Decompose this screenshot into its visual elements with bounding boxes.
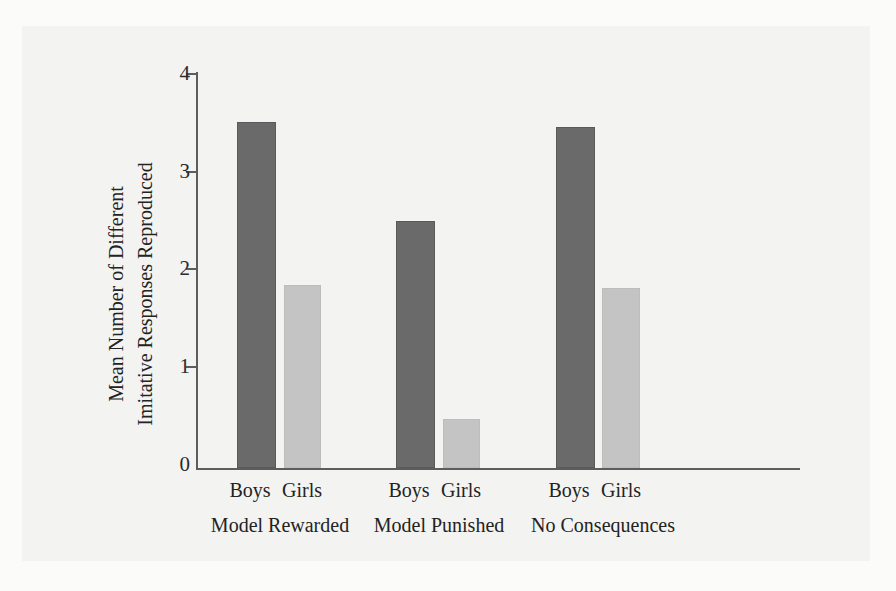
bar-boys-model-rewarded[interactable] (237, 122, 276, 468)
bar-girls-model-rewarded[interactable] (284, 285, 321, 468)
y-axis-title-line-2: Imitative Responses Reproduced (131, 84, 160, 504)
y-tick-label-1: 1 (150, 356, 190, 377)
group-label-model-punished: Model Punished (364, 514, 514, 537)
y-tick-label-3: 3 (150, 161, 190, 182)
bar-boys-no-consequences[interactable] (556, 127, 595, 468)
series-label-boys-2: Boys (383, 479, 435, 502)
series-labels-no-consequences: BoysGirls (543, 479, 653, 502)
y-axis-title: Mean Number of Different Imitative Respo… (102, 84, 160, 504)
y-tick-label-2: 2 (150, 258, 190, 279)
series-label-boys-1: Boys (224, 479, 276, 502)
series-labels-model-rewarded: BoysGirls (224, 479, 334, 502)
y-axis-title-line-1: Mean Number of Different (102, 84, 131, 504)
bar-girls-model-punished[interactable] (443, 419, 480, 468)
bar-boys-model-punished[interactable] (396, 221, 435, 468)
x-axis-line (196, 468, 800, 470)
y-axis-line (196, 72, 198, 470)
series-label-girls-3: Girls (595, 479, 647, 502)
bar-chart-plot: Mean Number of Different Imitative Respo… (0, 0, 896, 591)
series-label-girls-1: Girls (276, 479, 328, 502)
bar-girls-no-consequences[interactable] (602, 288, 640, 468)
series-label-girls-2: Girls (435, 479, 487, 502)
series-labels-model-punished: BoysGirls (383, 479, 493, 502)
y-tick-label-4: 4 (150, 63, 190, 84)
group-label-no-consequences: No Consequences (523, 514, 683, 537)
figure: Mean Number of Different Imitative Respo… (0, 0, 896, 591)
series-label-boys-3: Boys (543, 479, 595, 502)
y-tick-label-0: 0 (150, 454, 190, 475)
group-label-model-rewarded: Model Rewarded (205, 514, 355, 537)
